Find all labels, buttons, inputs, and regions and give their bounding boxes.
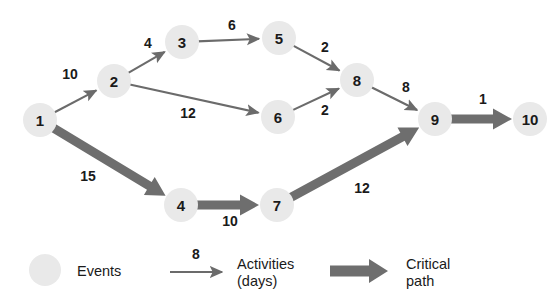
legend-activity-value: 8 xyxy=(192,246,200,262)
event-node-2[interactable]: 2 xyxy=(97,64,131,98)
event-node-8[interactable]: 8 xyxy=(340,63,374,97)
legend-critical-label-line1: Critical xyxy=(406,256,450,272)
event-node-label-7: 7 xyxy=(273,197,281,214)
event-node-9[interactable]: 9 xyxy=(418,102,452,136)
event-node-label-3: 3 xyxy=(178,34,186,51)
event-node-7[interactable]: 7 xyxy=(260,188,294,222)
event-node-label-5: 5 xyxy=(275,30,283,47)
event-node-label-1: 1 xyxy=(36,112,44,129)
activity-edge-8-to-9 xyxy=(370,87,417,110)
event-node-label-10: 10 xyxy=(522,111,539,128)
event-node-label-8: 8 xyxy=(353,72,361,89)
event-node-label-6: 6 xyxy=(274,109,282,126)
activity-edge-6-to-8 xyxy=(292,88,339,110)
edge-label-7-to-9: 12 xyxy=(354,180,370,196)
event-node-label-2: 2 xyxy=(110,73,118,90)
activity-edge-1-to-2 xyxy=(53,90,96,113)
edge-label-2-to-6: 12 xyxy=(180,105,196,121)
event-node-4[interactable]: 4 xyxy=(164,188,198,222)
event-node-5[interactable]: 5 xyxy=(262,21,296,55)
event-node-10[interactable]: 10 xyxy=(513,102,547,136)
activity-edge-3-to-5 xyxy=(197,39,259,42)
legend-activities-label-line2: (days) xyxy=(237,273,277,289)
activity-edge-5-to-8 xyxy=(292,45,339,70)
legend-events-circle-icon xyxy=(29,254,61,286)
pert-network-svg: 12345678910 1046212281510121 Events 8 Ac… xyxy=(0,0,555,305)
edge-label-9-to-10: 1 xyxy=(479,91,487,107)
event-node-label-4: 4 xyxy=(177,197,186,214)
edge-label-8-to-9: 8 xyxy=(402,79,410,95)
legend: Events 8 Activities (days) Critical path xyxy=(29,246,450,289)
legend-events-label: Events xyxy=(77,263,121,279)
critical-edge-1-to-4 xyxy=(49,123,166,196)
network-diagram: 12345678910 1046212281510121 Events 8 Ac… xyxy=(0,0,555,305)
critical-edge-9-to-10 xyxy=(448,109,512,130)
legend-activities-label-line1: Activities xyxy=(237,256,294,272)
edge-label-2-to-3: 4 xyxy=(144,35,152,51)
legend-critical-arrow-icon xyxy=(330,259,388,283)
edge-label-5-to-8: 2 xyxy=(321,39,329,55)
activity-edge-2-to-3 xyxy=(127,52,165,74)
critical-edge-7-to-9 xyxy=(286,127,419,202)
event-node-label-9: 9 xyxy=(431,111,439,128)
edge-label-1-to-2: 10 xyxy=(62,66,78,82)
event-node-3[interactable]: 3 xyxy=(165,25,199,59)
event-node-6[interactable]: 6 xyxy=(261,100,295,134)
event-node-1[interactable]: 1 xyxy=(23,103,57,137)
edge-label-4-to-7: 10 xyxy=(222,213,238,229)
edge-label-6-to-8: 2 xyxy=(321,102,329,118)
legend-critical-label-line2: path xyxy=(406,273,434,289)
edge-label-1-to-4: 15 xyxy=(80,168,96,184)
edge-label-3-to-5: 6 xyxy=(228,17,236,33)
